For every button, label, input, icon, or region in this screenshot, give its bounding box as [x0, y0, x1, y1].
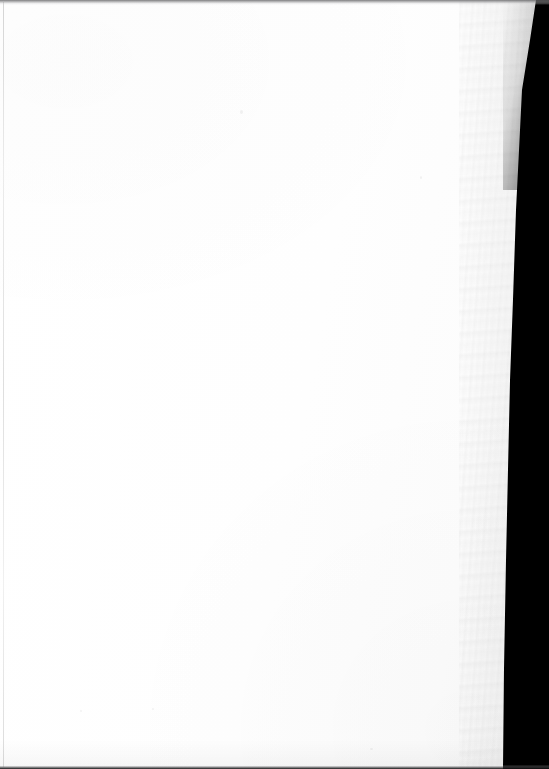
page-text-layer — [0, 0, 549, 769]
scanned-page-viewport — [0, 0, 549, 769]
page-sheet — [0, 0, 549, 769]
